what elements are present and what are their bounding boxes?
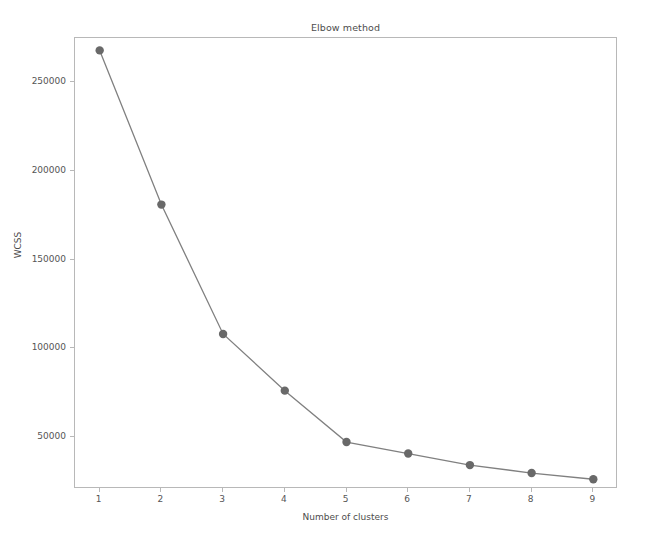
x-tick-mark <box>222 488 223 492</box>
x-axis-tick-labels: 123456789 <box>74 494 617 508</box>
x-tick-mark <box>160 488 161 492</box>
data-point <box>281 386 289 394</box>
x-tick-label: 7 <box>466 494 472 504</box>
x-tick-label: 1 <box>96 494 102 504</box>
wcss-markers <box>95 46 597 483</box>
chart-figure: Elbow method WCSS 5000010000015000020000… <box>0 0 646 549</box>
x-tick-mark <box>531 488 532 492</box>
x-tick-mark <box>592 488 593 492</box>
data-point <box>404 449 412 457</box>
data-point <box>527 469 535 477</box>
data-point <box>466 461 474 469</box>
x-tick-mark <box>346 488 347 492</box>
x-tick-mark <box>407 488 408 492</box>
data-point <box>342 438 350 446</box>
y-axis-tick-marks <box>0 37 80 488</box>
x-tick-mark <box>99 488 100 492</box>
x-tick-label: 8 <box>528 494 534 504</box>
data-point <box>95 46 103 54</box>
chart-title: Elbow method <box>74 22 617 33</box>
x-tick-label: 9 <box>589 494 595 504</box>
x-tick-label: 2 <box>158 494 164 504</box>
x-tick-mark <box>284 488 285 492</box>
x-tick-label: 5 <box>343 494 349 504</box>
x-tick-label: 4 <box>281 494 287 504</box>
plot-area <box>74 37 617 488</box>
wcss-line <box>100 50 594 479</box>
line-series-svg <box>75 38 618 489</box>
x-tick-mark <box>469 488 470 492</box>
data-point <box>157 200 165 208</box>
data-point <box>219 330 227 338</box>
data-point <box>589 475 597 483</box>
x-tick-label: 3 <box>219 494 225 504</box>
x-tick-label: 6 <box>404 494 410 504</box>
x-axis-label: Number of clusters <box>74 512 617 522</box>
